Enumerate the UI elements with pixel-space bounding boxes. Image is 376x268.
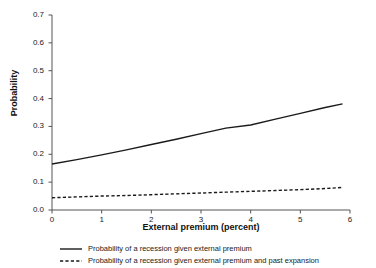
legend-label-1: Probability of a recession given externa… xyxy=(88,257,319,265)
x-axis-tick-label: 1 xyxy=(92,216,112,224)
x-axis-tick-label: 3 xyxy=(191,216,211,224)
legend-label-0: Probability of a recession given externa… xyxy=(88,245,252,253)
data-series-1 xyxy=(52,187,343,197)
legend-line-sample-solid xyxy=(60,245,82,253)
y-axis-tick-label: 0.6 xyxy=(14,39,44,47)
data-series-0 xyxy=(52,104,343,164)
y-axis-tick-label: 0.5 xyxy=(14,67,44,75)
x-axis-tick-label: 5 xyxy=(290,216,310,224)
y-axis-title: Probability xyxy=(9,53,19,133)
chart-figure: Probability External premium (percent) 0… xyxy=(0,0,376,268)
y-axis-tick-label: 0.0 xyxy=(14,206,44,214)
chart-legend: Probability of a recession given externa… xyxy=(0,243,376,267)
y-axis-tick-label: 0.7 xyxy=(14,11,44,19)
legend-item-0: Probability of a recession given externa… xyxy=(0,243,376,255)
x-axis-tick-label: 6 xyxy=(340,216,360,224)
x-axis-tick-label: 0 xyxy=(42,216,62,224)
y-axis-tick-label: 0.3 xyxy=(14,122,44,130)
x-axis-tick-label: 2 xyxy=(141,216,161,224)
y-axis-tick-label: 0.1 xyxy=(14,178,44,186)
y-axis-tick-label: 0.4 xyxy=(14,95,44,103)
x-axis-tick-label: 4 xyxy=(241,216,261,224)
legend-item-1: Probability of a recession given externa… xyxy=(0,255,376,267)
y-axis-tick-label: 0.2 xyxy=(14,150,44,158)
legend-line-sample-dashed xyxy=(60,257,82,265)
